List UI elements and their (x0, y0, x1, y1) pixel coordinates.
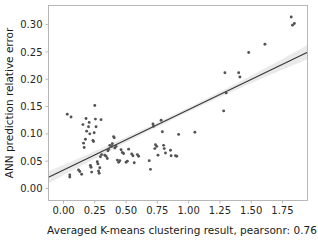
scatter-point (95, 125, 98, 128)
scatter-point (94, 118, 97, 121)
y-tick-label: 0.10 (20, 128, 42, 139)
scatter-point (110, 145, 113, 148)
y-tick-label: 0.20 (20, 74, 42, 85)
scatter-point (193, 131, 196, 134)
scatter-point (223, 71, 226, 74)
scatter-point (157, 154, 160, 157)
scatter-point (153, 147, 156, 150)
scatter-point (83, 146, 86, 149)
scatter-point (100, 153, 103, 156)
scatter-point (88, 121, 91, 124)
scatter-point (81, 123, 84, 126)
scatter-point (162, 144, 165, 147)
scatter-point (92, 140, 95, 143)
scatter-point (87, 125, 90, 128)
scatter-point (85, 130, 88, 133)
scatter-point (122, 152, 125, 155)
scatter-point (225, 91, 228, 94)
scatter-point (107, 148, 110, 151)
scatter-point (170, 154, 173, 157)
scatter-point (164, 152, 167, 155)
scatter-point (93, 131, 96, 134)
x-tick-label: 1.25 (209, 205, 231, 216)
y-tick-label: 0.05 (20, 156, 42, 167)
scatter-point (169, 149, 172, 152)
scatter-point (84, 138, 87, 141)
scatter-point (82, 142, 85, 145)
y-tick-label: 0.30 (20, 19, 42, 30)
scatter-point (290, 16, 293, 19)
scatter-point (70, 115, 73, 118)
scatter-point (237, 71, 240, 74)
chart-canvas: 0.000.250.500.751.001.251.501.75 0.000.0… (0, 0, 318, 240)
x-tick-label: 0.25 (84, 205, 106, 216)
scatter-point (93, 104, 96, 107)
y-axis-ticks-group: 0.000.050.100.150.200.250.30 (20, 19, 48, 194)
scatter-point (132, 154, 135, 157)
scatter-point (113, 136, 116, 139)
scatter-point (133, 161, 136, 164)
plot-frame (49, 6, 308, 201)
scatter-point (80, 173, 83, 176)
scatter-point (264, 43, 267, 46)
scatter-point (90, 171, 93, 174)
scatter-point (247, 51, 250, 54)
scatter-point (293, 22, 296, 25)
scatter-point (160, 119, 163, 122)
x-tick-label: 0.50 (115, 205, 137, 216)
scatter-point (127, 148, 130, 151)
scatter-point (148, 159, 151, 162)
scatter-point (115, 145, 118, 148)
scatter-point (120, 148, 123, 151)
scatter-point (100, 118, 103, 121)
scatter-point (90, 166, 93, 169)
x-tick-label: 1.50 (240, 205, 262, 216)
scatter-point (98, 166, 101, 169)
x-tick-label: 0.75 (146, 205, 168, 216)
x-axis-ticks-group: 0.000.250.500.751.001.251.501.75 (52, 201, 293, 216)
y-tick-label: 0.15 (20, 101, 42, 112)
x-tick-label: 1.00 (178, 205, 200, 216)
scatter-point (96, 162, 99, 165)
x-axis-title: Averaged K-means clustering result, pear… (47, 224, 317, 236)
scatter-plot-figure: 0.000.250.500.751.001.251.501.75 0.000.0… (0, 0, 318, 240)
scatter-point (177, 133, 180, 136)
scatter-point (106, 157, 109, 160)
scatter-point (161, 130, 164, 133)
x-tick-label: 1.75 (271, 205, 293, 216)
scatter-point (85, 117, 88, 120)
scatter-point (126, 160, 129, 163)
y-tick-label: 0.25 (20, 47, 42, 58)
scatter-point (137, 155, 140, 158)
scatter-point (118, 159, 121, 162)
scatter-point (111, 142, 114, 145)
regression-line-group (49, 52, 308, 177)
axes-spines (49, 6, 308, 201)
y-axis-title: ANN prediction relative error (3, 27, 15, 178)
scatter-point (152, 125, 155, 128)
scatter-point (98, 172, 101, 175)
scatter-point (163, 147, 166, 150)
scatter-point (88, 132, 91, 135)
scatter-point (78, 170, 81, 173)
scatter-point (66, 113, 69, 116)
scatter-point (149, 168, 152, 171)
scatter-point (222, 109, 225, 112)
y-tick-label: 0.00 (20, 183, 42, 194)
regression-line (49, 52, 308, 177)
x-tick-label: 0.00 (52, 205, 74, 216)
scatter-point (238, 76, 241, 79)
scatter-point (155, 145, 158, 148)
scatter-point (175, 155, 178, 158)
scatter-point (68, 176, 71, 179)
